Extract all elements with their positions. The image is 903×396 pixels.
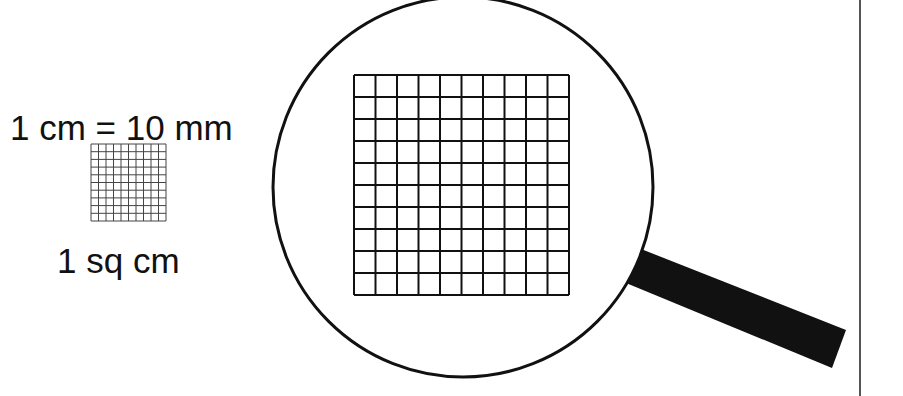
diagram-canvas (0, 0, 903, 396)
magnifier-handle (626, 247, 846, 368)
small-grid-1-sq-cm (91, 144, 166, 221)
magnifier-lens (273, 0, 653, 377)
